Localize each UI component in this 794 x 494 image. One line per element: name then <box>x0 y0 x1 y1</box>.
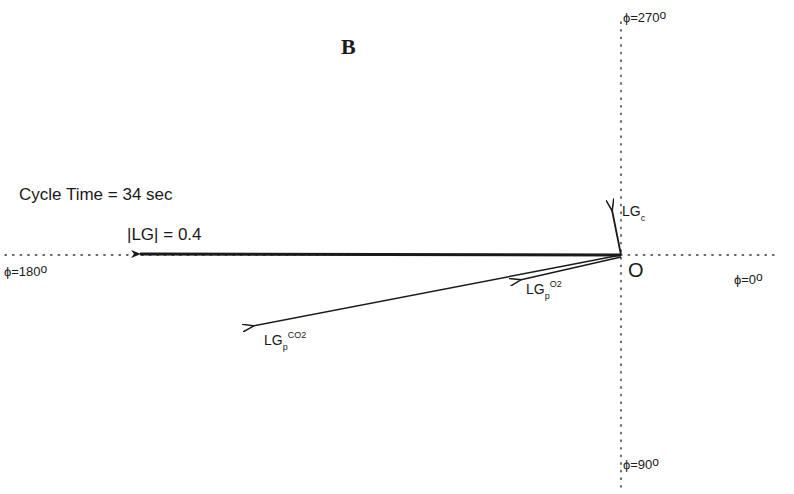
lg-c-vector <box>612 210 621 255</box>
lg-total-vector <box>140 254 621 255</box>
diagram-title: B <box>341 34 356 60</box>
phi-180-label: ϕ=180o <box>4 264 47 279</box>
phi-90-label: ϕ=90o <box>623 457 659 472</box>
cycle-time-annotation: Cycle Time = 34 sec <box>19 185 173 205</box>
lg-p-o2-label: LGpO2 <box>526 279 562 301</box>
lg-p-co2-vector <box>253 255 621 326</box>
phasor-diagram <box>0 0 794 494</box>
phi-0-label: ϕ=0o <box>734 272 763 287</box>
phi-270-label: ϕ=270o <box>623 10 666 25</box>
lg-magnitude-annotation: |LG| = 0.4 <box>127 225 202 245</box>
lg-c-label: LGc <box>622 203 645 223</box>
lg-p-co2-label: LGpCO2 <box>264 330 306 352</box>
lg-p-o2-vector <box>520 257 621 280</box>
origin-label: O <box>628 259 644 282</box>
